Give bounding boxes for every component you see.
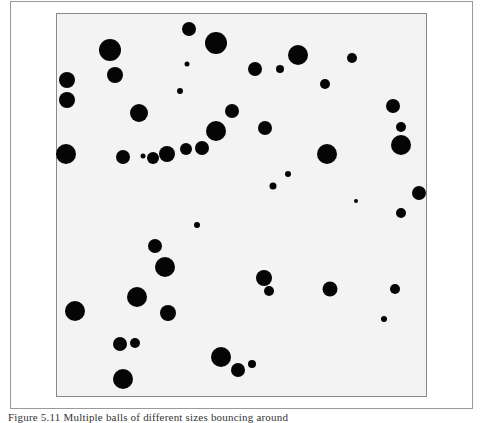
ball <box>195 141 209 155</box>
ball <box>59 72 75 88</box>
ball <box>205 32 227 54</box>
ball <box>225 104 239 118</box>
ball <box>276 65 284 73</box>
ball <box>264 286 274 296</box>
ball <box>211 347 231 367</box>
ball <box>248 360 256 368</box>
ball <box>99 39 121 61</box>
ball <box>56 144 76 164</box>
ball <box>320 79 330 89</box>
ball <box>130 338 140 348</box>
ball <box>65 301 85 321</box>
ball <box>177 88 183 94</box>
ball <box>59 92 75 108</box>
ball <box>127 287 147 307</box>
balls-layer <box>56 13 427 397</box>
ball <box>194 222 200 228</box>
ball <box>160 305 176 321</box>
ball <box>113 337 127 351</box>
ball <box>386 99 400 113</box>
ball <box>285 171 291 177</box>
ball <box>141 154 146 159</box>
ball <box>256 270 272 286</box>
ball <box>130 104 148 122</box>
ball <box>288 45 308 65</box>
ball <box>258 121 272 135</box>
ball <box>107 67 123 83</box>
ball <box>185 62 190 67</box>
ball <box>381 316 387 322</box>
ball <box>396 122 406 132</box>
ball <box>155 257 175 277</box>
ball <box>323 282 338 297</box>
ball <box>390 284 400 294</box>
ball <box>354 199 358 203</box>
ball <box>159 146 175 162</box>
bouncing-balls-canvas <box>56 13 427 397</box>
ball <box>116 150 130 164</box>
ball <box>206 121 226 141</box>
ball <box>231 363 245 377</box>
ball <box>317 144 337 164</box>
ball <box>396 208 406 218</box>
figure-caption: Figure 5.11 Multiple balls of different … <box>8 411 288 423</box>
ball <box>412 186 426 200</box>
ball <box>347 53 357 63</box>
ball <box>148 239 162 253</box>
ball <box>391 135 411 155</box>
ball <box>182 22 196 36</box>
ball <box>180 143 192 155</box>
ball <box>147 152 159 164</box>
ball <box>113 369 133 389</box>
ball <box>270 183 277 190</box>
ball <box>248 62 262 76</box>
